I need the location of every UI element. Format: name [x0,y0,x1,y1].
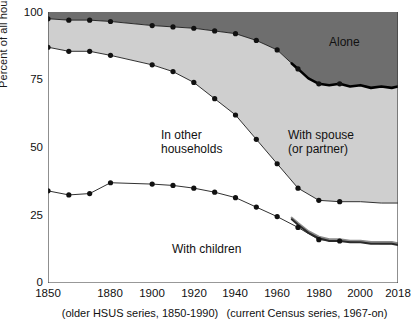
annotation-with-children: With children [172,243,241,257]
data-point [233,31,238,36]
data-point [295,186,300,191]
x-tick-label-1980: 1980 [306,287,332,299]
data-point [275,214,280,219]
plot-area: Alone In other households With spouse (o… [48,12,398,283]
data-point [150,62,155,67]
data-point [108,180,113,185]
x-tick-label-1850: 1850 [35,287,61,299]
data-point [212,96,217,101]
annotation-in-other-households-line2: households [161,143,222,157]
y-axis-tick-labels: 100 75 50 25 0 [0,0,46,333]
data-point [254,38,259,43]
annotation-with-spouse: With spouse (or partner) [288,129,354,156]
y-tick-label-75: 75 [3,74,43,85]
footnote-hsus-series: (older HSUS series, 1850-1990) [62,307,219,319]
y-tick-label-100: 100 [3,7,43,18]
data-point [337,81,342,86]
data-point [316,198,321,203]
annotation-with-spouse-line1: With spouse [288,129,354,143]
data-point [66,49,71,54]
data-point [170,24,175,29]
data-point [191,186,196,191]
chart-figure: Percent of all households 100 75 50 25 0… [0,0,419,333]
data-point [275,47,280,52]
data-point [170,69,175,74]
x-tick-label-2018: 2018 [385,287,411,299]
data-point [295,225,300,230]
data-point [66,192,71,197]
x-tick-label-1960: 1960 [264,287,290,299]
data-point [212,190,217,195]
data-point [108,19,113,24]
footnote-census-series: (current Census series, 1967-on) [227,307,388,319]
x-tick-label-1940: 1940 [222,287,248,299]
data-point [170,183,175,188]
data-point [316,81,321,86]
annotation-with-spouse-line2: (or partner) [288,143,354,157]
annotation-in-other-households: In other households [161,129,222,156]
x-tick-label-1920: 1920 [181,287,207,299]
data-point [150,23,155,28]
y-tick-label-25: 25 [3,210,43,221]
data-point [275,161,280,166]
data-point [87,191,92,196]
data-point [337,238,342,243]
data-point [254,137,259,142]
data-point [212,28,217,33]
annotation-alone: Alone [329,36,360,50]
data-point [191,80,196,85]
x-tick-label-1880: 1880 [97,287,123,299]
data-point [87,18,92,23]
data-point [150,181,155,186]
data-point [316,237,321,242]
data-point [254,205,259,210]
data-point [233,112,238,117]
annotation-in-other-households-line1: In other [161,129,222,143]
data-point [233,195,238,200]
data-point [87,49,92,54]
data-point [191,26,196,31]
x-tick-label-2000: 2000 [347,287,373,299]
data-point [108,53,113,58]
x-tick-label-1900: 1900 [139,287,165,299]
data-point [66,18,71,23]
data-point [295,66,300,71]
y-tick-label-50: 50 [3,142,43,153]
data-point [337,199,342,204]
